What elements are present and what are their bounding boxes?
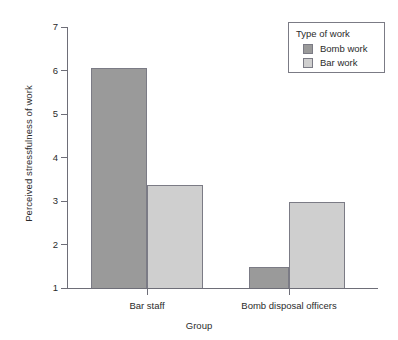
- y-tick-label-3: 3: [36, 196, 58, 206]
- x-tick-mark-bar-staff: [147, 289, 148, 295]
- legend-label-bomb-work: Bomb work: [320, 44, 368, 54]
- y-tick-label-7: 7: [36, 22, 58, 32]
- y-tick-label-6: 6: [36, 66, 58, 76]
- y-axis-line: [67, 27, 68, 289]
- x-axis-title: Group: [0, 320, 398, 331]
- y-tick-label-5: 5: [36, 109, 58, 119]
- x-tick-label-bar-staff: Bar staff: [129, 300, 164, 311]
- legend-item-bar-work: Bar work: [303, 58, 357, 68]
- y-axis-title: Perceived stressfulness of work: [23, 34, 34, 274]
- bar-bar-staff-bar-work: [147, 185, 203, 289]
- legend-label-bar-work: Bar work: [320, 58, 357, 68]
- x-tick-label-bomb-disposal-officers: Bomb disposal officers: [241, 300, 336, 311]
- x-tick-mark-bomb-disposal-officers: [289, 289, 290, 295]
- y-tick-label-1: 1: [36, 283, 58, 293]
- bar-bomb-disposal-officers-bar-work: [289, 202, 345, 289]
- bar-bomb-disposal-officers-bomb-work: [249, 267, 289, 289]
- y-tick-label-2: 2: [36, 240, 58, 250]
- legend-title: Type of work: [296, 28, 350, 39]
- bar-bar-staff-bomb-work: [91, 68, 147, 289]
- legend-item-bomb-work: Bomb work: [303, 44, 368, 54]
- legend-swatch-bomb-work: [303, 44, 313, 54]
- x-axis-line: [67, 288, 378, 289]
- y-tick-label-4: 4: [36, 153, 58, 163]
- legend-swatch-bar-work: [303, 58, 313, 68]
- legend: Type of work Bomb work Bar work: [288, 22, 385, 73]
- bar-chart: Perceived stressfulness of work 7 6 5 4 …: [0, 0, 398, 340]
